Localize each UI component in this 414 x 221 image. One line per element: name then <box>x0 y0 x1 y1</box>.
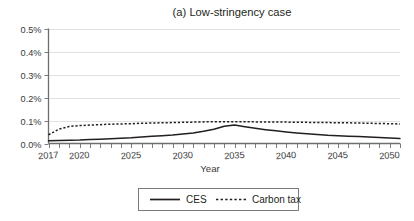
y-tick-label: 0.3% <box>21 71 42 81</box>
x-tick-label: 2040 <box>276 150 297 161</box>
chart-figure: (a) Low-stringency case 0.0%0.1%0.2%0.3%… <box>0 0 414 221</box>
chart-legend: CES Carbon tax <box>139 189 301 211</box>
x-tick-label: 2050 <box>379 150 400 161</box>
chart-background <box>0 0 414 221</box>
x-axis-title: Year <box>200 163 220 174</box>
y-tick-label: 0.4% <box>21 48 42 58</box>
x-tick-label: 2045 <box>327 150 348 161</box>
x-tick-label: 2035 <box>224 150 245 161</box>
line-chart: (a) Low-stringency case 0.0%0.1%0.2%0.3%… <box>0 0 414 221</box>
y-tick-label: 0.2% <box>21 94 42 104</box>
y-tick-label: 0.1% <box>21 117 42 127</box>
legend-label-ces: CES <box>186 194 207 205</box>
x-tick-label: 2020 <box>69 150 90 161</box>
y-tick-label: 0.5% <box>21 25 42 35</box>
chart-title: (a) Low-stringency case <box>173 6 292 18</box>
y-tick-label: 0.0% <box>21 140 42 150</box>
x-tick-label: 2017 <box>38 150 59 161</box>
x-tick-label: 2030 <box>172 150 193 161</box>
legend-label-carbon-tax: Carbon tax <box>252 194 301 205</box>
x-tick-label: 2025 <box>120 150 141 161</box>
